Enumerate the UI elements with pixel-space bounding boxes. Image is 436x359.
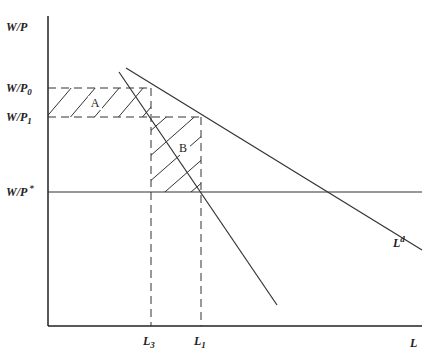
labor-demand-curve (126, 68, 422, 250)
x-axis-label: L (409, 336, 417, 350)
y-axis-label: W/P (6, 20, 28, 34)
labor-demand-label: Ld (392, 234, 405, 250)
l3-label: L3 (142, 334, 155, 350)
steep-demand-curve (119, 72, 277, 305)
area-b-hatch (140, 105, 250, 215)
wpstar-label: W/P* (6, 183, 34, 199)
wp1-label: W/P1 (6, 110, 32, 126)
area-a-label: A (91, 96, 100, 110)
wp0-label: W/P0 (6, 81, 32, 97)
area-b-label: B (179, 141, 187, 155)
area-a-hatch (38, 80, 174, 127)
l1-label: L1 (193, 334, 206, 350)
labor-market-diagram: W/P L W/P0 W/P1 W/P* L3 L1 Ld A B (0, 0, 436, 359)
